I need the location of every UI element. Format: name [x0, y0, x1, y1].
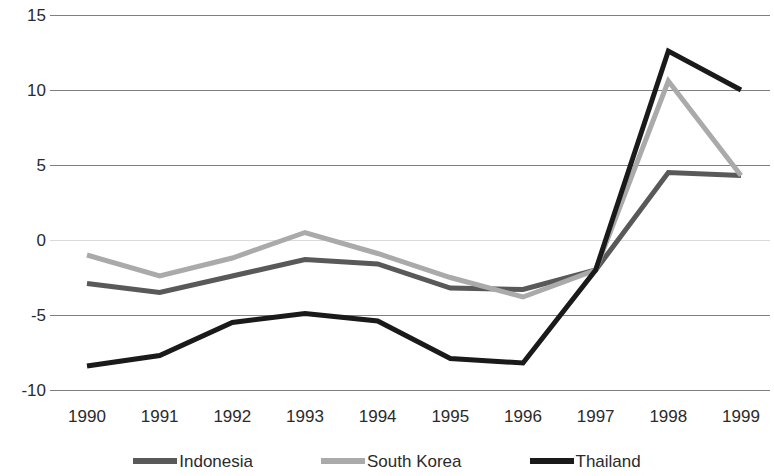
y-axis: 151050-5-10	[0, 0, 46, 476]
x-tick-label: 1993	[286, 408, 324, 425]
legend-swatch-icon	[133, 458, 177, 464]
series-line-indonesia	[87, 173, 741, 293]
y-tick-label: 15	[0, 7, 46, 24]
x-tick-label: 1998	[649, 408, 687, 425]
x-tick-label: 1996	[504, 408, 542, 425]
y-tick-label: -5	[0, 307, 46, 324]
x-tick-label: 1999	[722, 408, 760, 425]
x-tick-label: 1994	[359, 408, 397, 425]
y-tick-label: 5	[0, 157, 46, 174]
x-axis: 1990199119921993199419951996199719981999	[0, 408, 774, 434]
legend-label: Indonesia	[179, 453, 253, 470]
legend-item-indonesia[interactable]: Indonesia	[133, 453, 253, 470]
legend-swatch-icon	[321, 458, 365, 464]
x-tick-label: 1995	[431, 408, 469, 425]
legend-label: Thailand	[576, 453, 641, 470]
y-tick-label: -10	[0, 382, 46, 399]
y-tick-label: 0	[0, 232, 46, 249]
x-tick-label: 1992	[213, 408, 251, 425]
legend-item-south-korea[interactable]: South Korea	[321, 453, 462, 470]
y-tick-label: 10	[0, 82, 46, 99]
series-line-south-korea	[87, 81, 741, 297]
x-tick-label: 1997	[577, 408, 615, 425]
chart-legend: IndonesiaSouth KoreaThailand	[0, 446, 774, 476]
x-tick-label: 1991	[141, 408, 179, 425]
legend-swatch-icon	[530, 458, 574, 464]
line-chart: 151050-5-10 1990199119921993199419951996…	[0, 0, 774, 476]
plot-area	[0, 0, 774, 476]
x-tick-label: 1990	[68, 408, 106, 425]
legend-label: South Korea	[367, 453, 462, 470]
legend-item-thailand[interactable]: Thailand	[530, 453, 641, 470]
